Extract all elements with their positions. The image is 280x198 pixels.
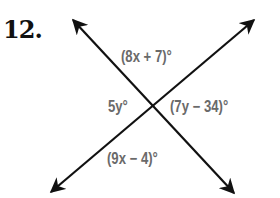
angle-label-top: (8x + 7)° [121,48,172,66]
intersecting-lines-diagram [0,0,280,198]
angle-label-right: (7y − 34)° [170,98,228,116]
angle-label-left: 5y° [108,98,128,116]
angle-label-bottom: (9x − 4)° [107,150,158,168]
